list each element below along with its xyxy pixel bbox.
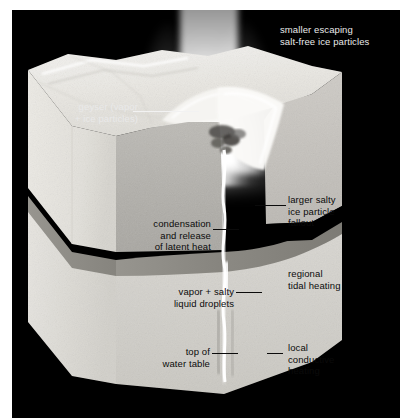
illustration-plate: smaller escaping salt-free ice particles…: [12, 10, 400, 418]
enceladus-geyser-figure: smaller escaping salt-free ice particles…: [0, 0, 412, 420]
label-smaller-escaping-particles: smaller escaping salt-free ice particles: [280, 24, 369, 47]
leader-line-vapor-salty: [236, 292, 262, 293]
label-top-of-water-table: top of water table: [132, 346, 210, 369]
leader-line-condensation: [213, 229, 239, 230]
label-larger-salty-fallout: larger salty ice particle fallout: [288, 194, 336, 229]
label-regional-tidal-heating: regional tidal heating: [288, 268, 341, 291]
leader-line-local-conductive: [267, 353, 283, 354]
leader-line-larger-salty: [255, 205, 286, 206]
leader-line-water-table: [212, 353, 238, 354]
label-vapor-salty-droplets: vapor + salty liquid droplets: [140, 286, 234, 309]
label-geyser: geyser (vapor + ice particles): [38, 101, 138, 124]
label-local-conductive-heating: local conductive heating: [288, 342, 334, 377]
label-condensation-latent-heat: condensation and release of latent heat: [125, 218, 211, 253]
leader-line-geyser: [133, 111, 199, 112]
